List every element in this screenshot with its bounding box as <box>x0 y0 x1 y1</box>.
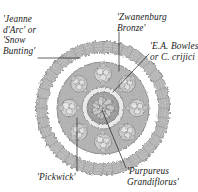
label-bowles-line-2: or C. crijici <box>150 52 195 62</box>
label-jeanne-line-2: d'Arc' or <box>3 25 36 35</box>
label-ea-bowles: 'E.A. Bowles'or C. crijici <box>150 41 198 62</box>
label-zwanenburg-line-2: Bronze' <box>117 23 146 33</box>
label-jeanne-line-1: 'Jeanne <box>3 14 32 24</box>
label-pickwick: 'Pickwick' <box>37 172 76 183</box>
label-zwanenburg-bronze: 'ZwanenburgBronze' <box>117 12 167 33</box>
label-pickwick-line-1: 'Pickwick' <box>37 172 76 182</box>
label-jeanne-line-4: Bunting' <box>3 46 35 56</box>
planting-plan-figure: 'Jeanned'Arc' or'SnowBunting' 'Zwanenbur… <box>0 0 198 192</box>
label-jeanne-darc: 'Jeanned'Arc' or'SnowBunting' <box>3 14 36 56</box>
label-purpureus-line-2: Grandiflorus' <box>127 177 179 187</box>
label-purpureus-grandiflorus: 'PurpureusGrandiflorus' <box>127 166 179 187</box>
label-purpureus-line-1: 'Purpureus <box>127 166 169 176</box>
label-jeanne-line-3: 'Snow <box>3 35 26 45</box>
label-bowles-line-1: 'E.A. Bowles' <box>150 41 198 51</box>
label-zwanenburg-line-1: 'Zwanenburg <box>117 12 167 22</box>
